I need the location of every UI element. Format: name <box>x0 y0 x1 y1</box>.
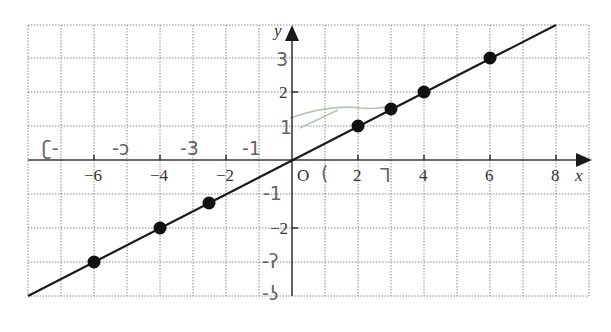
origin-label: O <box>297 166 309 185</box>
x-tick-label: −4 <box>150 166 169 185</box>
line-chart: −6 −4 −2 2 4 6 8 2 −2 O x y ʗ- -ɔ -3 -1 … <box>0 0 611 332</box>
y-tick-label: 2 <box>279 83 288 102</box>
data-point <box>88 256 101 269</box>
handwritten-label: -3 <box>180 137 199 159</box>
handwritten-label: -1 <box>242 137 261 159</box>
x-tick-label: 4 <box>419 166 428 185</box>
handwritten-label: ⅂ <box>380 164 391 186</box>
data-point <box>385 103 398 116</box>
handwritten-label: -ʔ <box>262 250 279 272</box>
x-tick-label: 8 <box>551 166 560 185</box>
x-axis-arrow-icon <box>576 153 592 167</box>
axes <box>28 25 592 296</box>
x-tick-label: 2 <box>353 166 362 185</box>
y-tick-label: −2 <box>270 219 288 238</box>
handwritten-label: ʗ- <box>42 137 59 159</box>
handwritten-label: -ɔ <box>112 137 129 159</box>
y-axis-label: y <box>272 21 282 40</box>
data-point <box>484 52 497 65</box>
data-point <box>154 222 167 235</box>
handwritten-label: -ʖ <box>262 282 279 304</box>
handwritten-label: 3 <box>276 48 288 70</box>
x-tick-label: −6 <box>84 166 102 185</box>
handwritten-label: 1 <box>280 116 292 138</box>
y-axis-arrow-icon <box>285 25 299 41</box>
handwritten-label: ( <box>321 162 328 184</box>
handwritten-label: -1 <box>263 182 282 204</box>
data-point <box>418 86 431 99</box>
x-tick-label: −2 <box>216 166 234 185</box>
x-tick-label: 6 <box>485 166 494 185</box>
data-point <box>352 120 365 133</box>
x-axis-label: x <box>574 166 583 185</box>
data-point <box>203 197 216 210</box>
